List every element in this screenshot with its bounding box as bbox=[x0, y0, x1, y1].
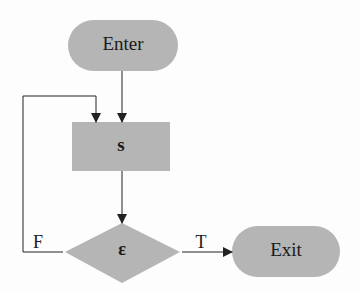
condition-node-label: ε bbox=[92, 239, 152, 260]
false-edge-label: F bbox=[30, 232, 46, 253]
true-edge-label: T bbox=[193, 232, 209, 253]
statement-node-label: s bbox=[72, 134, 170, 156]
exit-node-label: Exit bbox=[232, 239, 340, 261]
enter-node-label: Enter bbox=[68, 33, 178, 55]
edge-false-loop bbox=[23, 96, 96, 252]
